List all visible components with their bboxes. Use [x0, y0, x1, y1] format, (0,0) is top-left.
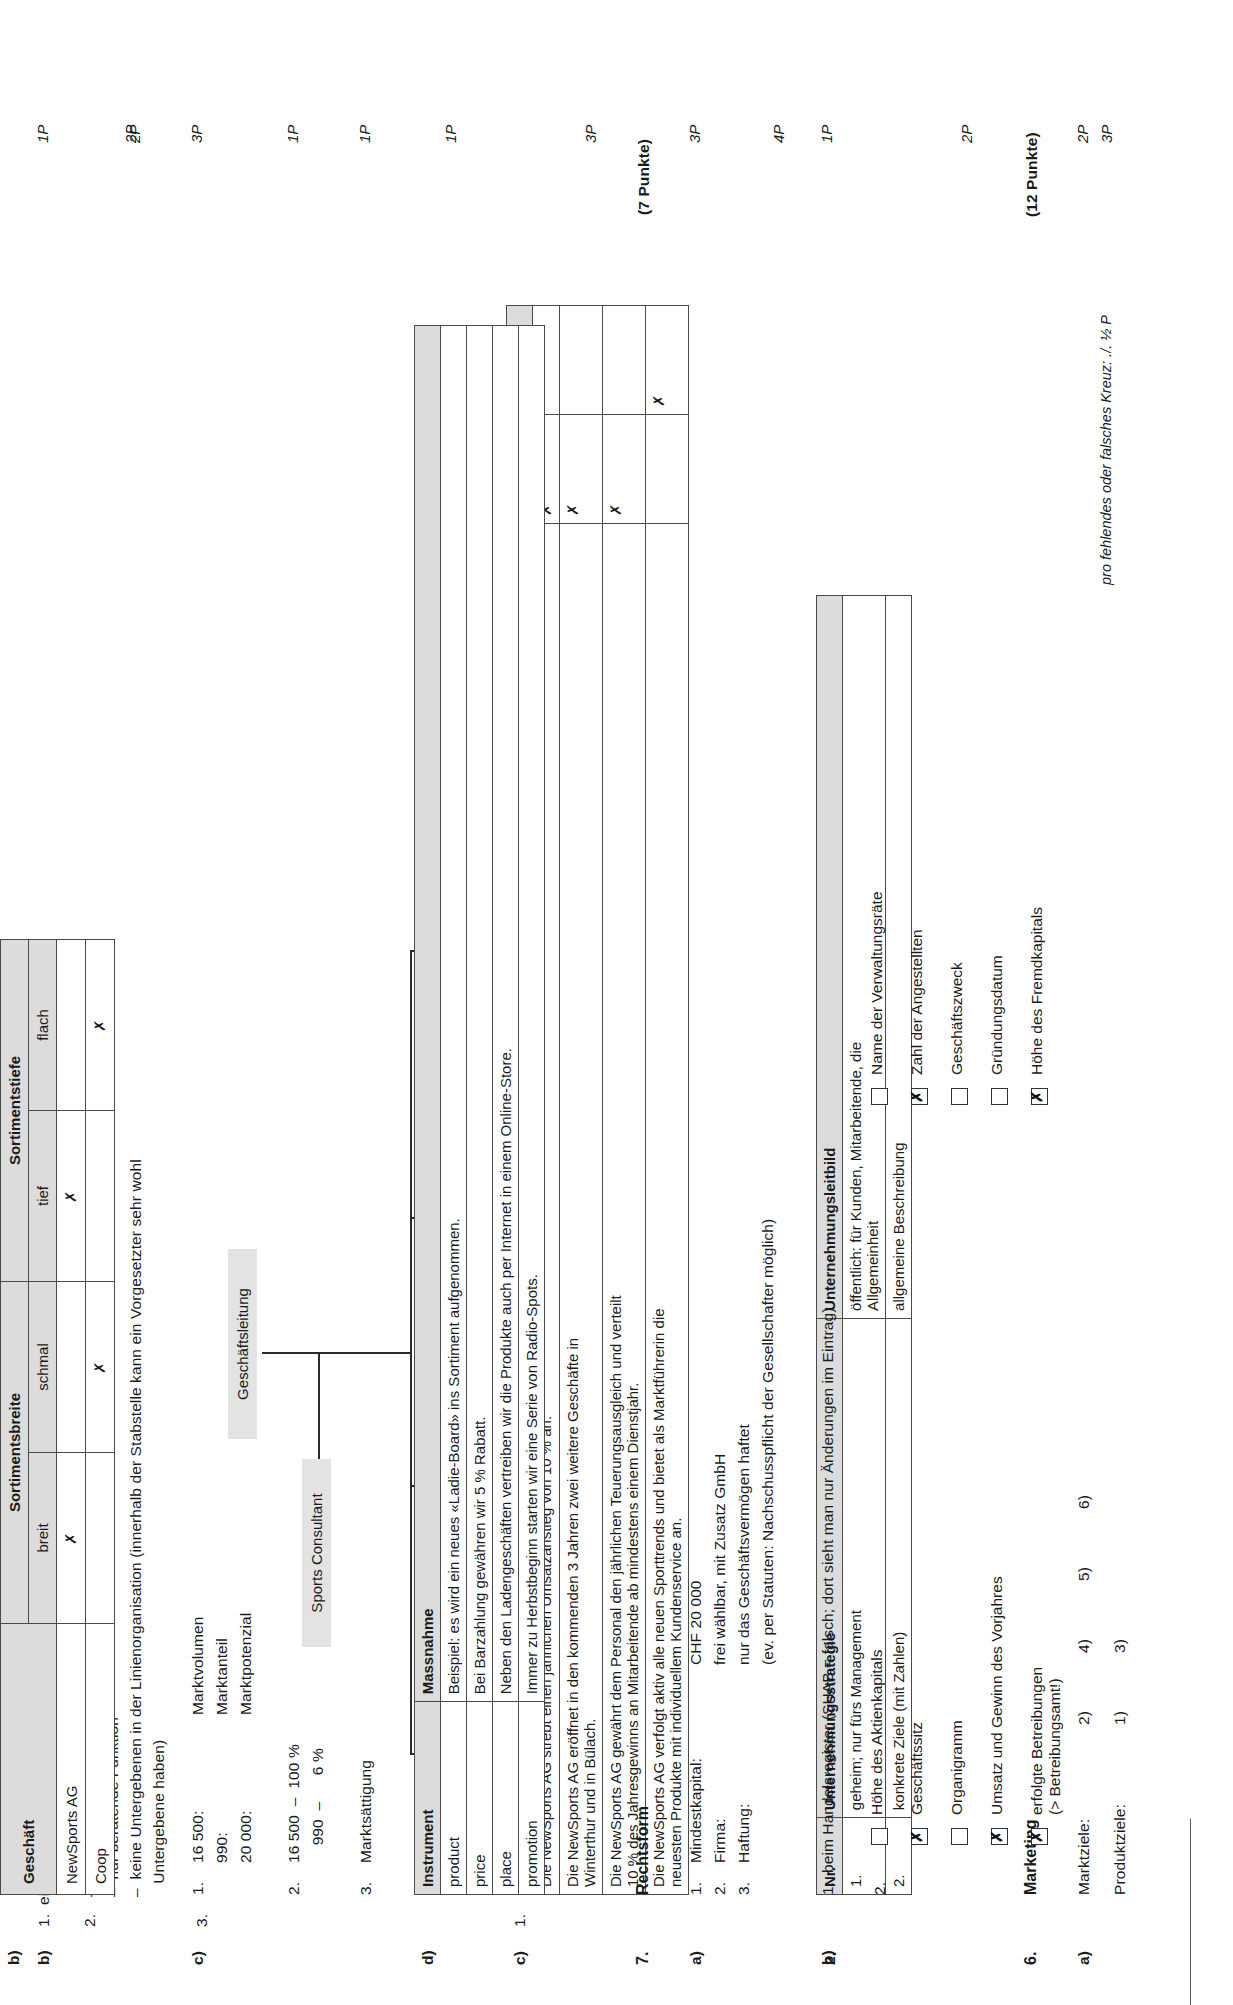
checkbox-umsatz-gewinn[interactable]: [991, 1828, 1008, 1845]
points-6c-1: 3P: [188, 125, 205, 143]
org-box-sports-consultant: Sports Consultant: [302, 1459, 331, 1647]
checkbox-hoehe-fremdkapital[interactable]: [1031, 1088, 1048, 1105]
checkbox-geschaeftssitz[interactable]: [911, 1828, 928, 1845]
q7a-r3-no: 3.: [734, 1882, 754, 1895]
q7a-r2-no: 2.: [710, 1882, 730, 1895]
checkbox-label-gruendungsdatum: Gründungsdatum: [988, 955, 1006, 1075]
table-row: promotion Immer zu Herbstbeginn starten …: [519, 326, 545, 1895]
q5c-no: 1.: [510, 1914, 530, 1927]
massnahme-place: Neben den Ladengeschäften vertreiben wir…: [493, 326, 519, 1702]
q7b-item1: 1. beim Handelsregister (SHAB = falsch; …: [818, 1307, 838, 1895]
checkbox-label-organigramm: Organigramm: [948, 1720, 966, 1815]
q7b-item2-no: 2.: [870, 1882, 890, 1895]
massnahme-promotion: Immer zu Herbstbeginn starten wir eine S…: [519, 326, 545, 1702]
marker-6a: a): [1074, 1951, 1094, 1965]
massnahme-product: Beispiel: es wird ein neues «Ladie-Board…: [441, 326, 467, 1702]
marker-6c: c): [188, 1951, 208, 1965]
table-row: place Neben den Ladengeschäften vertreib…: [493, 326, 519, 1895]
mark-ustr-2: ✗: [560, 415, 603, 524]
section-7-title: Rechtsform: [634, 1806, 652, 1895]
org-line-staff: [318, 1353, 320, 1475]
points-5b-1: 1P: [34, 125, 51, 143]
rotated-page-wrapper-2: b) Geschäft Sortimentsbreite Sortimentst…: [0, 0, 1, 2005]
massnahme-price: Bei Barzahlung gewähren wir 5 % Rabatt.: [467, 326, 493, 1702]
mark-ns-breit: ✗: [57, 1453, 86, 1624]
checkbox-geschaeftszweck[interactable]: [951, 1088, 968, 1105]
table-sortiment: Geschäft Sortimentsbreite Sortimentstief…: [0, 939, 115, 1895]
table-row: Die NewSports AG gewährt dem Personal de…: [603, 306, 646, 1895]
checkbox-label-geschaeftssitz: Geschäftssitz: [908, 1722, 926, 1815]
grid-group-header-row: Geschäft Sortimentsbreite Sortimentstief…: [1, 940, 29, 1895]
group-sortimentstiefe: Sortimentstiefe: [1, 940, 29, 1282]
marker-5b: b): [34, 1950, 54, 1965]
geschaeft-newsports: NewSports AG: [57, 1624, 86, 1895]
section-6-number: 6.: [1022, 1952, 1040, 1965]
q7a-r2-label: Firma:: [710, 1818, 730, 1863]
instrument-promotion: promotion: [519, 1702, 545, 1895]
q6c-b1-num1: 16 500:: [188, 1811, 208, 1863]
mark-ustr-4: [646, 415, 689, 524]
mark-ulb-3: [603, 306, 646, 415]
col-schmal: schmal: [29, 1282, 57, 1453]
mark-coop-schmal: ✗: [86, 1282, 115, 1453]
q5b-item3-no: 3.: [192, 1914, 212, 1927]
points-6a: 2P: [1074, 125, 1091, 143]
q6c-b1-lbl1: Marktvolumen: [188, 1616, 208, 1715]
checkbox-label-erfolgte-betreibungen: erfolgte Betreibungen (> Betreibungsamt!…: [1028, 1667, 1064, 1815]
grid-row: Coop ✗ ✗: [86, 940, 115, 1895]
checkbox-label-umsatz-gewinn: Umsatz und Gewinn des Vorjahres: [988, 1576, 1006, 1815]
q6c-b3-no: 3.: [356, 1882, 376, 1895]
points-5-2: 2P: [958, 125, 975, 143]
q6c-b1-no: 1.: [188, 1882, 208, 1895]
marktziele-label: Marktziele:: [1074, 1819, 1094, 1895]
marker-6b: b): [4, 1950, 24, 1965]
section-6-points: (12 Punkte): [1022, 132, 1042, 217]
mark-ulb-2: [560, 306, 603, 415]
aussage-2: Die NewSports AG eröffnet in den kommend…: [560, 524, 603, 1895]
q7a-r2-value: frei wählbar, mit Zusatz GmbH: [710, 1454, 730, 1665]
checkbox-name-verwaltungsraete[interactable]: [871, 1088, 888, 1105]
page-edge-rule: [1190, 1819, 1191, 2005]
q6c-b2-no: 2.: [284, 1882, 304, 1895]
q6c-b2-line2: 990 – 6 %: [308, 1748, 328, 1863]
q6c-b1-num3: 20 000:: [236, 1811, 256, 1863]
points-7b: 1P: [818, 125, 835, 143]
produktziele-v1: 1): [1110, 1711, 1130, 1725]
table-row: Die NewSports AG verfolgt aktiv alle neu…: [646, 306, 689, 1895]
aussage-4: Die NewSports AG verfolgt aktiv alle neu…: [646, 524, 689, 1895]
points-6c-2: 1P: [284, 125, 301, 143]
produktziele-label: Produktziele:: [1110, 1804, 1130, 1895]
group-sortimentsbreite: Sortimentsbreite: [1, 1282, 29, 1624]
q6c-b2-line1: 16 500 – 100 %: [284, 1744, 304, 1863]
table-row: Die NewSports AG eröffnet in den kommend…: [560, 306, 603, 1895]
checkbox-label-geschaeftszweck: Geschäftszweck: [948, 962, 966, 1075]
table-header-row: Instrument Massnahme: [415, 326, 441, 1895]
checkbox-gruendungsdatum[interactable]: [991, 1088, 1008, 1105]
q7a-r1-label: Mindestkapital:: [686, 1758, 706, 1863]
marktziele-v4: 6): [1074, 1495, 1094, 1509]
checkbox-label-name-verwaltungsraete: Name der Verwaltungsräte: [868, 891, 886, 1075]
points-org: 1P: [442, 125, 459, 143]
q5b-item2-line3: – keine Untergebenen in der Linienorgani…: [126, 1159, 146, 1897]
col-flach: flach: [29, 940, 57, 1111]
page-column-right: b) Geschäft Sortimentsbreite Sortimentst…: [0, 0, 1, 2005]
geschaeft-coop: Coop: [86, 1624, 115, 1895]
checkbox-label-zahl-angestellten: Zahl der Angestellten: [908, 929, 926, 1075]
mark-ulb-4: ✗: [646, 306, 689, 415]
marker-7b: b): [818, 1950, 838, 1965]
org-line-bus: [410, 951, 412, 1755]
instrument-price: price: [467, 1702, 493, 1895]
checkbox-erfolgte-betreibungen[interactable]: [1031, 1828, 1048, 1845]
q7a-r1-value: CHF 20 000: [686, 1580, 706, 1665]
marktziele-v3: 5): [1074, 1567, 1094, 1581]
table-marketing-mix: Instrument Massnahme product Beispiel: e…: [414, 325, 545, 1895]
q7a-r1-no: 1.: [686, 1882, 706, 1895]
checkbox-organigramm[interactable]: [951, 1828, 968, 1845]
org-box-geschaeftsleitung: Geschäftsleitung: [228, 1249, 257, 1439]
q6c-b1-num2: 990:: [212, 1832, 232, 1863]
checkbox-hoehe-aktienkapital[interactable]: [871, 1828, 888, 1845]
produktziele-v2: 3): [1110, 1639, 1130, 1653]
table-row: 2. konkrete Ziele (mit Zahlen) allgemein…: [886, 596, 912, 1895]
marker-6d: d): [418, 1950, 438, 1965]
checkbox-zahl-angestellten[interactable]: [911, 1088, 928, 1105]
